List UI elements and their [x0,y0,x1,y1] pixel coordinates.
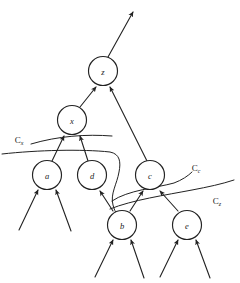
input-arrow-a-right [56,190,71,231]
edge-x-to-z [80,87,96,107]
node-x[interactable]: x [58,106,87,135]
cut-label-cx-subscript: x [20,140,24,146]
node-a[interactable]: a [33,161,62,190]
node-e[interactable]: e [173,211,202,240]
input-arrow-b-left [95,240,113,277]
cut-curve-cx-upper [31,135,112,144]
edge-z-to-output [108,12,133,57]
cut-label-cc-subscript: c [198,168,201,174]
edge-b-to-d [100,191,113,211]
node-d[interactable]: d [78,161,107,190]
node-c[interactable]: c [136,161,165,190]
node-e-label: e [185,221,189,231]
node-c-label: c [148,171,152,181]
edge-d-to-x [80,136,88,161]
node-z-label: z [100,67,105,77]
cut-label-cz-subscript: z [218,201,222,207]
node-x-label: x [69,116,74,126]
edge-a-to-x [52,136,64,161]
input-arrow-b-right [131,240,144,278]
cut-label-cc: Cc [192,163,201,174]
node-b[interactable]: b [108,211,137,240]
cut-label-cx: Cx [15,135,24,146]
edge-c-to-z [110,87,147,161]
node-a-label: a [45,171,49,181]
input-arrow-e-left [160,240,178,277]
cut-curve-cx-lower [2,150,122,221]
input-arrow-a-left [19,190,38,230]
node-z[interactable]: z [89,57,118,86]
diagram-canvas: z x a d c b [0,0,240,283]
graph-svg: z x a d c b [0,0,240,283]
input-arrow-e-right [196,240,210,278]
cut-label-cz: Cz [213,196,222,207]
node-b-label: b [120,221,124,231]
